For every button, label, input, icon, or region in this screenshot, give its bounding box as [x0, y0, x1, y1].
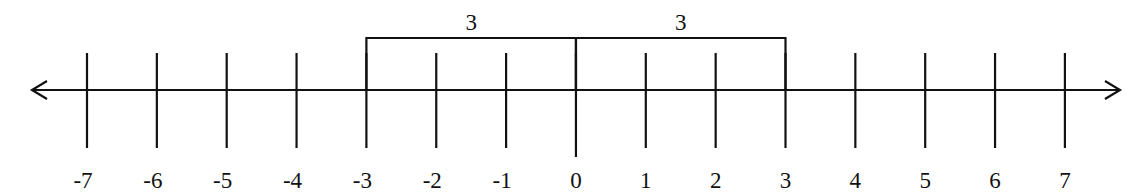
tick-label: -2	[423, 168, 442, 193]
tick-label: -3	[353, 168, 372, 193]
tick-label: -1	[493, 168, 512, 193]
tick-label: 3	[780, 168, 792, 193]
number-line-diagram: -7-6-5-4-3-2-101234567 33	[0, 0, 1146, 196]
tick-label: 4	[850, 168, 862, 193]
tick-label: -7	[73, 168, 92, 193]
tick-labels: -7-6-5-4-3-2-101234567	[73, 168, 1070, 193]
tick-label: -6	[143, 168, 162, 193]
tick-label: 1	[640, 168, 652, 193]
distance-bracket	[366, 38, 576, 90]
distance-bracket	[576, 38, 786, 90]
bracket-label: 3	[465, 10, 477, 35]
tick-label: 0	[570, 168, 582, 193]
tick-label: -4	[283, 168, 303, 193]
tick-label: 7	[1059, 168, 1071, 193]
tick-label: 6	[989, 168, 1001, 193]
bracket-label: 3	[675, 10, 687, 35]
tick-label: 2	[710, 168, 722, 193]
tick-label: -5	[213, 168, 232, 193]
distance-brackets: 33	[366, 10, 785, 90]
tick-label: 5	[919, 168, 931, 193]
